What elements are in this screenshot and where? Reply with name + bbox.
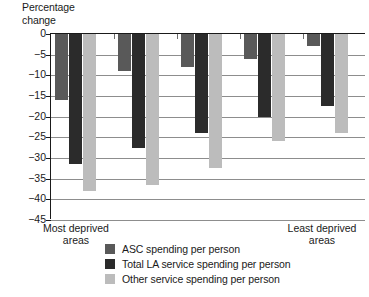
bar (181, 34, 194, 67)
legend-item[interactable]: Other service spending per person (105, 272, 291, 286)
y-axis-tick (46, 158, 51, 159)
legend-swatch-icon (105, 274, 115, 284)
legend-swatch-icon (105, 259, 115, 269)
legend-label: ASC spending per person (122, 244, 240, 255)
gridline (51, 137, 365, 138)
bar (258, 34, 271, 117)
legend-label: Other service spending per person (122, 274, 280, 285)
gridline (51, 117, 365, 118)
y-axis-label: −45 (28, 214, 46, 225)
bar (244, 34, 257, 59)
y-axis-label: −40 (28, 193, 46, 204)
y-axis-tick (46, 199, 51, 200)
group-separator-tick (177, 34, 178, 39)
chart-legend: ASC spending per personTotal LA service … (105, 242, 291, 287)
y-axis-label: −10 (28, 69, 46, 80)
y-axis-tick (46, 55, 51, 56)
y-axis-tick (46, 137, 51, 138)
bar-chart: Percentage change Most deprived areas Le… (0, 0, 369, 297)
legend-item[interactable]: Total LA service spending per person (105, 257, 291, 271)
y-axis-label: 0 (40, 28, 46, 39)
y-axis-tick (46, 179, 51, 180)
y-axis-title: Percentage change (22, 1, 75, 26)
bar (55, 34, 68, 100)
y-axis-label: −5 (34, 49, 46, 60)
y-axis-label: −30 (28, 152, 46, 163)
gridline (51, 220, 365, 221)
y-axis-label: −35 (28, 173, 46, 184)
bar (272, 34, 285, 141)
y-axis-tick (46, 75, 51, 76)
bar (335, 34, 348, 133)
y-axis-tick (46, 220, 51, 221)
y-axis-label: −20 (28, 111, 46, 122)
group-separator-tick (240, 34, 241, 39)
y-axis-tick (46, 117, 51, 118)
bar (83, 34, 96, 191)
y-axis-label: −25 (28, 131, 46, 142)
bar (307, 34, 320, 46)
gridline (51, 75, 365, 76)
bar (69, 34, 82, 164)
legend-label: Total LA service spending per person (122, 259, 291, 270)
gridline (51, 179, 365, 180)
gridline (51, 199, 365, 200)
legend-swatch-icon (105, 244, 115, 254)
y-axis-tick (46, 34, 51, 35)
plot-area (50, 33, 365, 219)
bar (118, 34, 131, 71)
y-axis-tick (46, 96, 51, 97)
bar (195, 34, 208, 133)
gridline (51, 96, 365, 97)
group-separator-tick (303, 34, 304, 39)
bar (209, 34, 222, 168)
bar (321, 34, 334, 106)
group-separator-tick (114, 34, 115, 39)
gridline (51, 158, 365, 159)
bar (132, 34, 145, 148)
gridline (51, 55, 365, 56)
y-axis-label: −15 (28, 90, 46, 101)
legend-item[interactable]: ASC spending per person (105, 242, 291, 256)
bar (146, 34, 159, 185)
